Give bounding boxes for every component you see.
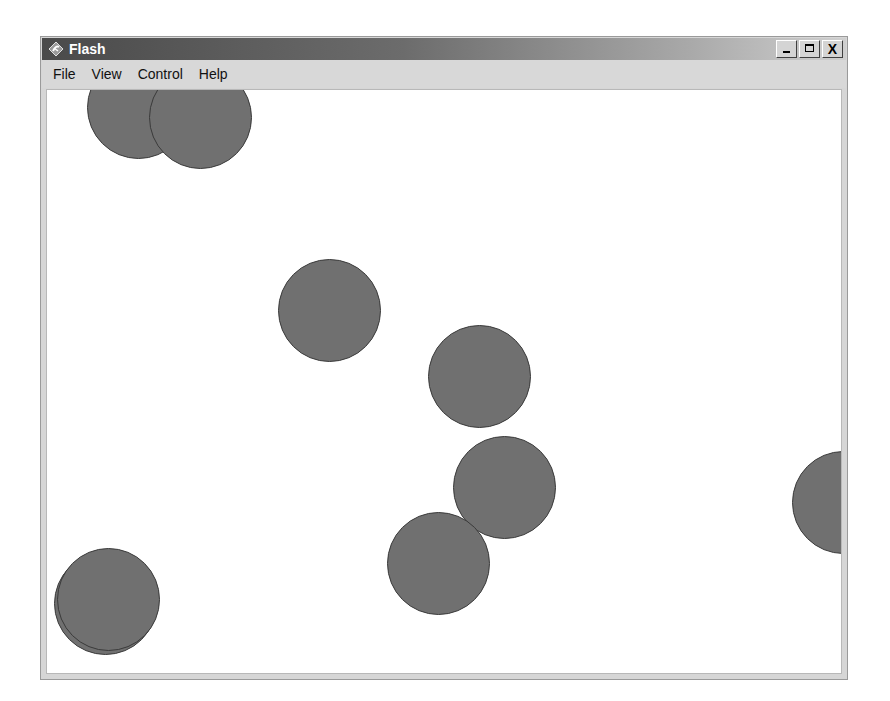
ball [149, 89, 252, 169]
ball [792, 451, 843, 554]
ball [428, 325, 531, 428]
menu-help[interactable]: Help [191, 64, 236, 84]
menu-view[interactable]: View [84, 64, 130, 84]
window-title: Flash [69, 41, 106, 57]
ball [387, 512, 490, 615]
close-button[interactable]: X [822, 40, 843, 58]
title-bar[interactable]: Flash X [42, 38, 846, 60]
maximize-icon [805, 44, 814, 52]
flash-player-window: Flash X File View Control Help [40, 36, 848, 680]
flash-stage[interactable] [46, 89, 842, 674]
maximize-button[interactable] [799, 40, 820, 58]
menu-control[interactable]: Control [130, 64, 191, 84]
minimize-button[interactable] [776, 40, 797, 58]
flash-player-icon [48, 41, 64, 57]
ball [57, 548, 160, 651]
close-icon: X [823, 40, 842, 58]
minimize-icon [783, 51, 790, 53]
window-controls: X [776, 40, 843, 58]
ball [278, 259, 381, 362]
menu-bar: File View Control Help [42, 60, 846, 88]
menu-file[interactable]: File [46, 64, 84, 84]
